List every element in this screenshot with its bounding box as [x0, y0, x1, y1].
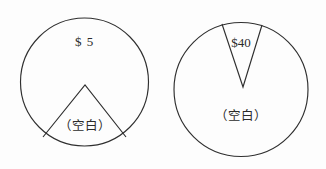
- figure-canvas: [0, 0, 326, 169]
- left-circle-amount-label: $ 5: [0, 35, 169, 48]
- pie-comparison-figure: $ 5 （空白） $40 （空白）: [0, 0, 326, 169]
- right-circle-wedge: [222, 24, 262, 87]
- right-circle-blank-label: （空白）: [176, 110, 306, 123]
- right-circle-amount-label: $40: [176, 36, 306, 49]
- left-circle-blank-label: （空白）: [0, 120, 169, 133]
